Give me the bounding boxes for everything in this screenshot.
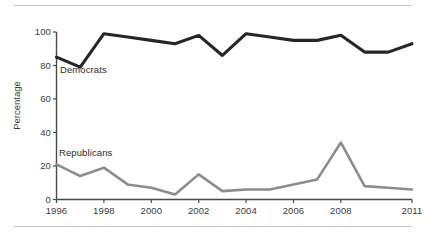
x-tick-label: 2000: [131, 205, 171, 216]
y-axis-title: Percentage: [11, 71, 22, 141]
x-tick-label: 2011: [392, 205, 426, 216]
x-tick-label: 2006: [274, 205, 314, 216]
data-series-group: [57, 34, 413, 195]
chart-figure: Percentage 020406080100 1996199820002002…: [0, 0, 426, 233]
y-tick-label: 60: [29, 93, 51, 104]
x-tick-label: 2008: [321, 205, 361, 216]
series-line-democrats: [57, 34, 413, 67]
y-tick-label: 40: [29, 127, 51, 138]
y-tick-label: 20: [29, 160, 51, 171]
x-tick-label: 1996: [37, 205, 77, 216]
x-tick-label: 1998: [84, 205, 124, 216]
y-tick-label: 100: [29, 26, 51, 37]
y-tick-label: 0: [29, 194, 51, 205]
y-tick-label: 80: [29, 60, 51, 71]
line-chart-plot: [0, 0, 426, 233]
x-tick-label: 2002: [179, 205, 219, 216]
series-annotation-democrats: Democrats: [60, 64, 107, 75]
series-annotation-republicans: Republicans: [59, 147, 112, 158]
x-tick-label: 2004: [226, 205, 266, 216]
